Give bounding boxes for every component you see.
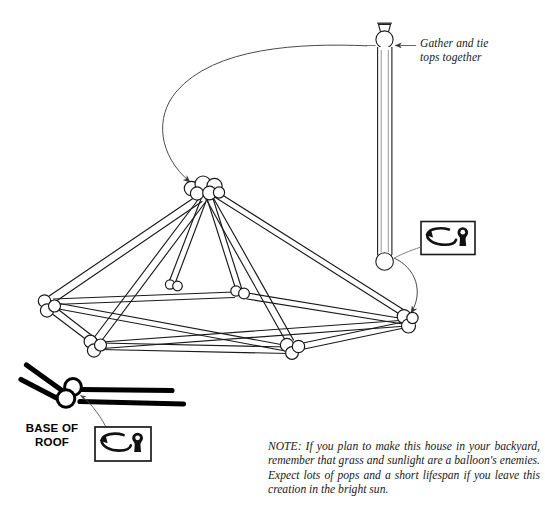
joint-bottom-middle	[280, 338, 304, 359]
dome-joints	[38, 176, 418, 359]
detail-knot-cluster	[57, 379, 81, 408]
gather-callout-line1: Gather and tie	[420, 37, 488, 49]
joint-right	[397, 310, 418, 333]
curved-arrow-top-to-apex	[163, 45, 367, 182]
diagram-page: Gather and tie tops together BASE OF ROO…	[0, 0, 545, 509]
joint-back-left	[165, 280, 182, 291]
gather-and-tie-callout: Gather and tie tops together	[420, 36, 542, 64]
joint-back-middle	[231, 286, 250, 299]
detail-strut-lower-right	[80, 402, 184, 405]
right-icon-leader	[394, 247, 421, 259]
balloon-body	[378, 47, 392, 260]
standalone-balloon	[376, 23, 394, 270]
twist-icon-box-right	[421, 222, 475, 255]
note-text: NOTE: If you plan to make this house in …	[268, 440, 540, 498]
balloon-tail-knot	[376, 253, 394, 271]
detail-strut-upper-right	[81, 390, 173, 391]
base-of-roof-line1: BASE OF	[12, 421, 92, 435]
balloon-head-knot	[376, 31, 393, 48]
base-of-roof-line2: ROOF	[12, 435, 92, 449]
balloon-dome-frame	[44, 190, 407, 354]
joint-left	[38, 295, 60, 317]
curved-arrow-bottom-to-base	[394, 258, 417, 313]
base-of-roof-label: BASE OF ROOF	[12, 421, 92, 449]
gather-callout-line2: tops together	[420, 51, 482, 63]
base-of-roof-detail	[21, 365, 184, 427]
apex-knot-cluster	[184, 176, 224, 200]
twist-icon-box-left	[95, 427, 151, 461]
